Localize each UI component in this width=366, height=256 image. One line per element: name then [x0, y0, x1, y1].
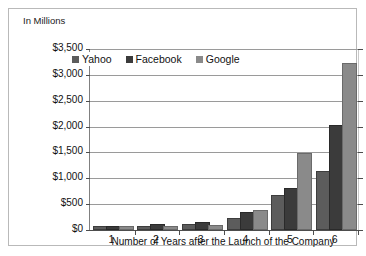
bar[interactable] [208, 225, 223, 230]
y-tick [86, 230, 90, 231]
y-tick-right [358, 204, 363, 205]
bar-group [90, 49, 135, 230]
bar[interactable] [342, 63, 357, 230]
legend-swatch-icon [126, 56, 133, 63]
y-tick-right [358, 75, 363, 76]
y-tick-right [358, 49, 363, 50]
bar[interactable] [253, 210, 268, 230]
bar-group [179, 49, 224, 230]
y-axis-label: $500 [35, 197, 83, 208]
x-axis-title: Number of Years after the Launch of the … [89, 236, 357, 247]
legend-item[interactable]: Facebook [126, 53, 182, 65]
bar-group [313, 49, 358, 230]
legend-label: Facebook [136, 53, 182, 65]
y-axis-label: $3,000 [35, 68, 83, 79]
plot-area [89, 49, 359, 230]
bar[interactable] [119, 226, 134, 230]
y-axis-label: $1,000 [35, 171, 83, 182]
legend-item[interactable]: Google [196, 53, 240, 65]
y-tick-right [358, 178, 363, 179]
x-tick [358, 230, 359, 235]
y-axis-title: In Millions [23, 15, 65, 26]
legend-swatch-icon [196, 56, 203, 63]
bar[interactable] [163, 226, 178, 230]
y-tick-right [358, 127, 363, 128]
y-tick-right [358, 101, 363, 102]
bar[interactable] [297, 153, 312, 230]
y-axis-label: $1,500 [35, 145, 83, 156]
chart-legend: YahooFacebookGoogle [69, 52, 243, 66]
legend-swatch-icon [72, 56, 79, 63]
chart-frame: In Millions $0$500$1,000$1,500$2,000$2,5… [8, 8, 357, 246]
y-axis-label: $2,500 [35, 94, 83, 105]
y-axis-label: $0 [35, 223, 83, 234]
legend-item[interactable]: Yahoo [72, 53, 112, 65]
y-axis-label: $2,000 [35, 120, 83, 131]
legend-label: Google [206, 53, 240, 65]
y-tick-right [358, 152, 363, 153]
legend-label: Yahoo [82, 53, 112, 65]
bar-group [135, 49, 180, 230]
bar-group [224, 49, 269, 230]
bar-group [269, 49, 314, 230]
